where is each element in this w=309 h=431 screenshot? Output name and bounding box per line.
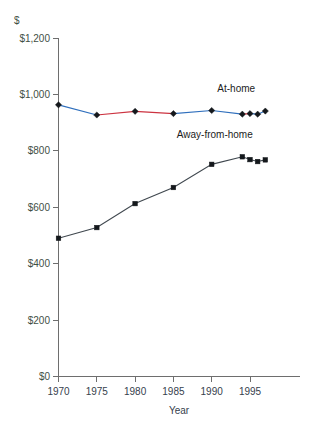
data-point-marker <box>170 111 176 117</box>
y-axis-unit-text: $ <box>14 15 20 26</box>
y-tick-label: $0 <box>39 371 51 382</box>
data-point-marker <box>262 108 268 114</box>
y-axis-tick-group: $0$200$400$600$800$1,000$1,200 <box>19 33 58 383</box>
data-point-marker <box>263 158 268 163</box>
data-point-marker <box>248 157 253 162</box>
data-point-marker <box>247 111 253 117</box>
y-tick-label: $1,000 <box>19 89 50 100</box>
y-axis-unit-label: $ <box>14 15 20 26</box>
data-point-marker <box>55 102 61 108</box>
x-tick-label: 1990 <box>201 386 224 397</box>
x-tick-label: 1975 <box>86 386 109 397</box>
data-point-marker <box>56 236 61 241</box>
y-tick-label: $1,200 <box>19 33 50 44</box>
series-line-at-home <box>135 111 173 113</box>
x-tick-label: 1970 <box>47 386 70 397</box>
y-tick-label: $600 <box>28 202 51 213</box>
series-label-at-home: At-home <box>217 83 255 94</box>
data-point-marker <box>239 111 245 117</box>
series-label-away-from-home: Away-from-home <box>177 129 253 140</box>
x-tick-label: 1980 <box>124 386 147 397</box>
data-point-marker <box>133 201 138 206</box>
data-point-marker <box>132 108 138 114</box>
data-point-marker <box>171 185 176 190</box>
series-line-at-home <box>97 111 135 115</box>
x-axis-tick-group: 197019751980198519901995 <box>47 377 261 398</box>
y-tick-label: $200 <box>28 315 51 326</box>
line-chart: $ $0$200$400$600$800$1,000$1,200 1970197… <box>0 0 309 431</box>
data-series-group <box>55 102 268 241</box>
y-tick-label: $400 <box>28 258 51 269</box>
data-point-marker <box>95 225 100 230</box>
y-tick-label: $800 <box>28 145 51 156</box>
data-point-marker <box>209 107 215 113</box>
data-point-marker <box>209 162 214 167</box>
series-line-at-home <box>212 110 243 114</box>
data-point-marker <box>255 159 260 164</box>
x-tick-label: 1985 <box>162 386 185 397</box>
series-line-away-from-home <box>59 157 266 239</box>
x-axis-title: Year <box>169 405 190 416</box>
data-point-marker <box>240 154 245 159</box>
chart-container: $ $0$200$400$600$800$1,000$1,200 1970197… <box>0 0 309 431</box>
series-line-at-home <box>59 105 97 115</box>
x-tick-label: 1995 <box>239 386 262 397</box>
data-point-marker <box>94 112 100 118</box>
series-line-at-home <box>173 110 211 113</box>
data-point-marker <box>255 111 261 117</box>
